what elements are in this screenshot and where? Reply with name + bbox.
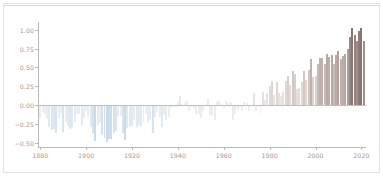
y-axis-tick-label: −0.50 (15, 140, 34, 147)
y-axis-tick-mark (35, 105, 38, 106)
bar (260, 105, 262, 113)
x-axis-tick-label: 1900 (78, 152, 94, 159)
x-axis-tick-mark (178, 147, 179, 150)
y-axis-tick-label: 0.50 (20, 64, 34, 71)
x-axis-tick-mark (224, 147, 225, 150)
y-axis-tick-mark (35, 49, 38, 50)
zero-baseline (38, 105, 366, 106)
x-axis-tick-mark (361, 147, 362, 150)
y-axis-tick-mark (35, 86, 38, 87)
x-axis-line (38, 147, 366, 148)
y-axis-tick-mark (35, 30, 38, 31)
y-axis-tick-label: 0.25 (20, 83, 34, 90)
x-axis-tick-mark (40, 147, 41, 150)
y-axis-tick-label: 0.00 (20, 102, 34, 109)
x-axis-tick-label: 2000 (307, 152, 323, 159)
bar (214, 105, 216, 119)
plot-area (38, 22, 366, 147)
bar (253, 93, 255, 105)
y-axis-tick-mark (35, 67, 38, 68)
x-axis-tick-label: 2020 (353, 152, 369, 159)
y-axis-tick-mark (35, 143, 38, 144)
x-axis-tick-label: 1980 (262, 152, 278, 159)
figure-top-rule (4, 5, 379, 6)
x-axis-tick-mark (132, 147, 133, 150)
bar (363, 41, 365, 105)
figure-container: 1.000.750.500.250.00−0.25−0.50 188019001… (0, 0, 383, 176)
x-axis-tick-label: 1920 (124, 152, 140, 159)
y-axis-tick-labels: 1.000.750.500.250.00−0.25−0.50 (0, 22, 34, 147)
x-axis-tick-label: 1940 (170, 152, 186, 159)
x-axis-tick-label: 1880 (32, 152, 48, 159)
temperature-anomaly-bars (38, 22, 366, 147)
x-axis-tick-mark (270, 147, 271, 150)
y-axis-tick-label: −0.25 (15, 121, 34, 128)
y-axis-tick-mark (35, 124, 38, 125)
y-axis-tick-label: 1.00 (20, 26, 34, 33)
x-axis-tick-mark (86, 147, 87, 150)
x-axis-tick-mark (316, 147, 317, 150)
y-axis-tick-label: 0.75 (20, 45, 34, 52)
x-axis-tick-label: 1960 (216, 152, 232, 159)
